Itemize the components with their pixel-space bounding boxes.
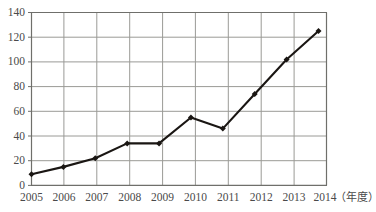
horizontal-gridlines <box>31 13 327 161</box>
y-tick-label-100: 100 <box>0 56 25 68</box>
data-series-line <box>32 31 319 174</box>
y-tick-label-60: 60 <box>0 106 25 118</box>
vertical-gridlines <box>64 13 294 186</box>
data-point-marker <box>29 171 35 177</box>
y-tick-label-0: 0 <box>0 180 25 192</box>
y-tick-label-40: 40 <box>0 131 25 143</box>
y-tick-label-20: 20 <box>0 155 25 167</box>
x-axis-unit-label: （年度） <box>335 192 376 203</box>
y-tick-label-120: 120 <box>0 32 25 44</box>
y-tick-label-140: 140 <box>0 7 25 19</box>
y-tick-label-80: 80 <box>0 81 25 93</box>
data-point-markers <box>29 28 322 177</box>
axis-frame <box>31 13 327 186</box>
data-point-marker <box>60 164 66 170</box>
